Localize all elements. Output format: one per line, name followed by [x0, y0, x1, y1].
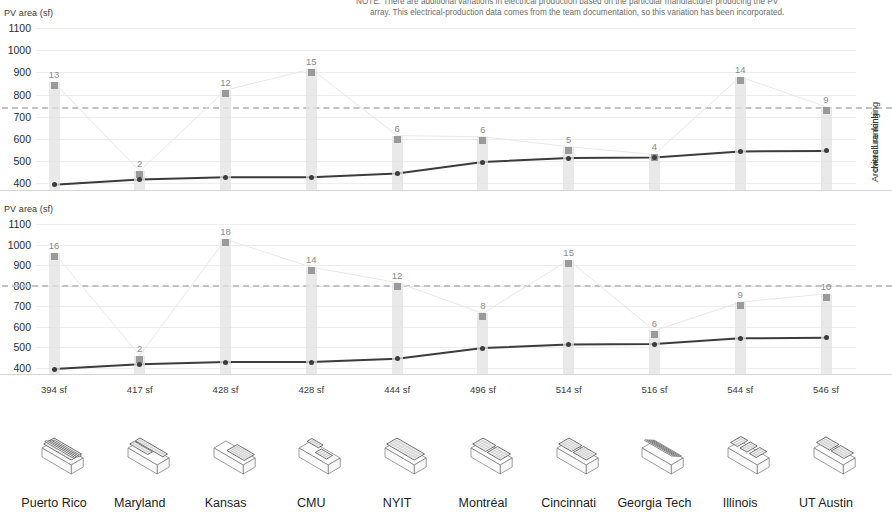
rank-bar-cap — [222, 90, 229, 97]
school-name-label: Kansas — [205, 496, 247, 510]
rank-value-label: 6 — [480, 124, 485, 135]
pv-data-point[interactable] — [52, 367, 57, 372]
rank-bar-column[interactable]: 14 — [735, 28, 746, 190]
rank-bar-column[interactable]: 9 — [735, 224, 746, 374]
rank-bar-cap — [823, 107, 830, 114]
y-axis-tick-label: 900 — [13, 66, 31, 78]
house-diagram — [778, 398, 874, 492]
rank-bar-cap — [479, 137, 486, 144]
school-name-label: Illinois — [723, 496, 758, 510]
rank-bar-column[interactable]: 13 — [49, 28, 60, 190]
rank-bar-column[interactable]: 16 — [49, 224, 60, 374]
rank-bar-column[interactable]: 2 — [134, 224, 145, 374]
school-name-row: Puerto RicoMarylandKansasCMUNYITMontréal… — [0, 496, 892, 518]
rank-bar-column[interactable]: 9 — [821, 28, 832, 190]
note-line-1: NOTE: There are additional variations in… — [356, 0, 778, 6]
rank-bar-column[interactable]: 6 — [477, 28, 488, 190]
gridline — [36, 50, 856, 51]
house-diagram — [263, 398, 359, 492]
y-axis-tick-label: 900 — [13, 259, 31, 271]
pv-data-point[interactable] — [480, 160, 485, 165]
pv-data-point[interactable] — [52, 182, 57, 187]
rank-bar — [49, 253, 60, 374]
house-diagram — [692, 398, 788, 492]
pv-data-point[interactable] — [652, 342, 657, 347]
rank-bar-column[interactable]: 5 — [563, 28, 574, 190]
school-name-label: NYIT — [383, 496, 411, 510]
x-axis-tick-label: 394 sf — [41, 384, 67, 395]
rank-value-label: 15 — [306, 56, 317, 67]
house-diagram — [521, 398, 617, 492]
y-axis-tick-label: 400 — [13, 177, 31, 189]
x-axis-tick-label: 546 sf — [813, 384, 839, 395]
rank-bar — [735, 77, 746, 190]
rank-bar — [392, 136, 403, 190]
rank-value-label: 9 — [738, 289, 743, 300]
school-name-label: Cincinnati — [541, 496, 596, 510]
rank-bar-cap — [51, 82, 58, 89]
pv-data-point[interactable] — [824, 335, 829, 340]
pv-area-line — [54, 151, 826, 185]
rank-value-label: 13 — [49, 69, 60, 80]
rank-bar-column[interactable]: 6 — [649, 224, 660, 374]
rank-bar-cap — [737, 77, 744, 84]
rank-bar-column[interactable]: 6 — [392, 28, 403, 190]
y-axis-tick-label: 800 — [13, 89, 31, 101]
y-axis-tick-label: 500 — [13, 155, 31, 167]
gridline — [36, 368, 856, 369]
school-name-label: Montréal — [459, 496, 508, 510]
rank-bar-column[interactable]: 18 — [220, 224, 231, 374]
pv-data-point[interactable] — [223, 360, 228, 365]
rank-bar — [563, 260, 574, 374]
house-diagram — [349, 398, 445, 492]
y-axis-tick-label: 1100 — [8, 218, 31, 230]
pv-data-point[interactable] — [566, 156, 571, 161]
rank-bar-column[interactable]: 10 — [821, 224, 832, 374]
y-axis-tick-label: 500 — [13, 341, 31, 353]
rank-bar-column[interactable]: 8 — [477, 224, 488, 374]
gridline — [36, 347, 856, 348]
rank-bar-column[interactable]: 12 — [220, 28, 231, 190]
rank-bar-column[interactable]: 12 — [392, 224, 403, 374]
x-axis-tick-label: 544 sf — [727, 384, 753, 395]
pv-data-point[interactable] — [309, 360, 314, 365]
x-axis-tick-label: 514 sf — [556, 384, 582, 395]
rank-bar-column[interactable]: 2 — [134, 28, 145, 190]
rank-value-label: 15 — [563, 247, 574, 258]
rank-value-label: 6 — [652, 318, 657, 329]
gridline — [36, 28, 856, 29]
school-name-label: CMU — [297, 496, 325, 510]
rank-bar-column[interactable]: 14 — [306, 224, 317, 374]
rank-bar — [220, 239, 231, 374]
rank-value-label: 8 — [480, 300, 485, 311]
x-axis-tick-label: 428 sf — [298, 384, 324, 395]
school-name-label: Georgia Tech — [617, 496, 691, 510]
gridline — [36, 139, 856, 140]
chart-panel-architecture: PV area (sf) 110010009008007006005004001… — [0, 8, 892, 204]
rank-value-label: 18 — [220, 226, 231, 237]
pv-area-line — [54, 338, 826, 369]
pv-data-point[interactable] — [223, 175, 228, 180]
rank-bar-cap — [394, 136, 401, 143]
y-axis-tick-label: 1100 — [8, 22, 31, 34]
pv-data-point[interactable] — [652, 155, 657, 160]
rank-value-label: 10 — [821, 281, 832, 292]
pv-data-point[interactable] — [738, 336, 743, 341]
rank-bar-column[interactable]: 4 — [649, 28, 660, 190]
pv-data-point[interactable] — [309, 175, 314, 180]
rank-bar-cap — [737, 302, 744, 309]
pv-data-point[interactable] — [395, 171, 400, 176]
house-diagram — [178, 398, 274, 492]
gridline — [36, 327, 856, 328]
pv-data-point[interactable] — [395, 356, 400, 361]
rank-bar-column[interactable]: 15 — [563, 224, 574, 374]
pv-data-point[interactable] — [738, 149, 743, 154]
y-axis-tick-label: 1000 — [8, 239, 31, 251]
rank-bar-cap — [394, 283, 401, 290]
house-diagram — [92, 398, 188, 492]
gridline — [36, 95, 856, 96]
x-axis-tick-label: 516 sf — [641, 384, 667, 395]
rank-bar-column[interactable]: 15 — [306, 28, 317, 190]
rank-bar — [306, 69, 317, 190]
x-axis-tick-label: 428 sf — [213, 384, 239, 395]
